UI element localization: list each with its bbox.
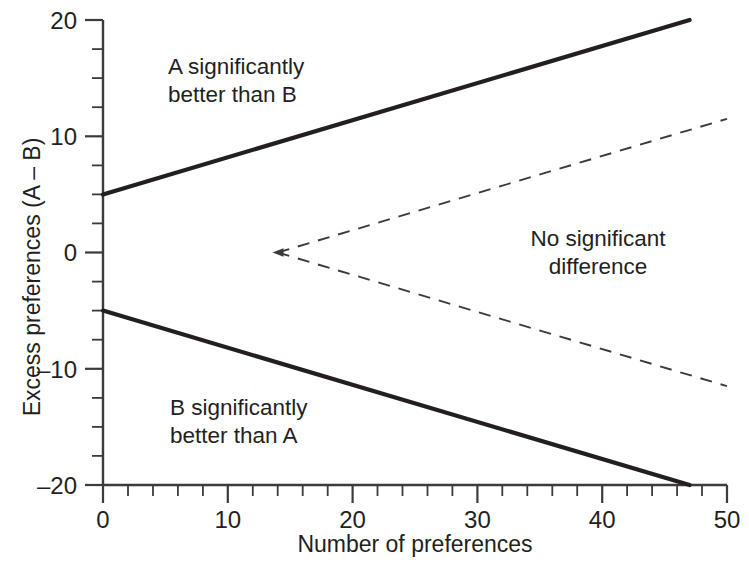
x-tick-label-40: 40 [589, 506, 616, 533]
x-axis-major-ticks [103, 485, 727, 503]
chart-figure: 20 10 0 –10 –20 [0, 0, 749, 573]
y-tick-label-0: 0 [64, 239, 77, 266]
x-tick-label-30: 30 [464, 506, 491, 533]
x-tick-label-0: 0 [96, 506, 109, 533]
x-axis: 0 10 20 30 40 50 [96, 485, 740, 533]
y-axis: 20 10 0 –10 –20 [37, 7, 103, 499]
no-difference-vertex-marker [273, 248, 284, 256]
annotation-no-significant-difference: No significant difference [530, 225, 665, 281]
y-tick-label-10: 10 [50, 123, 77, 150]
x-tick-label-10: 10 [214, 506, 241, 533]
annotation-a-significantly-better: A significantly better than B [168, 53, 304, 109]
annotation-b-significantly-better: B significantly better than A [170, 394, 308, 450]
significance-boundary-chart: 20 10 0 –10 –20 [0, 0, 749, 573]
x-axis-minor-ticks [128, 485, 702, 496]
y-tick-label-20: 20 [50, 7, 77, 34]
x-tick-label-20: 20 [339, 506, 366, 533]
x-axis-title: Number of preferences [297, 530, 532, 558]
y-axis-major-ticks [85, 20, 103, 485]
y-axis-title: Excess preferences (A – B) [18, 67, 46, 487]
x-tick-label-50: 50 [714, 506, 741, 533]
